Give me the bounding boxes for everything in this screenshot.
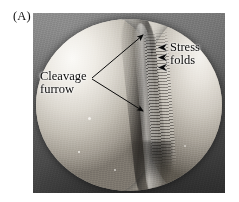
- label-stress-folds-line1: Stress: [170, 40, 200, 54]
- label-cleavage-furrow-line2: furrow: [40, 83, 87, 96]
- surface-fleck: [78, 151, 80, 153]
- figure-panel: (A): [0, 0, 239, 202]
- surface-fleck: [88, 117, 91, 120]
- panel-letter: (A): [13, 9, 31, 24]
- label-cleavage-furrow-line1: Cleavage: [40, 69, 87, 83]
- label-stress-folds: Stress folds: [170, 41, 200, 67]
- surface-fleck: [114, 169, 116, 171]
- surface-fleck: [184, 145, 186, 147]
- label-cleavage-furrow: Cleavage furrow: [40, 70, 87, 96]
- label-stress-folds-line2: folds: [170, 54, 200, 67]
